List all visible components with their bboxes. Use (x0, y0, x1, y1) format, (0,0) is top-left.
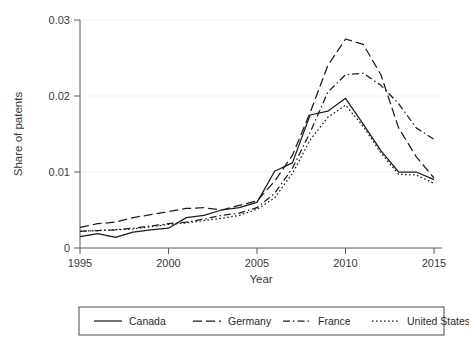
x-tick-label: 2000 (156, 257, 180, 269)
legend-label-germany: Germany (228, 315, 272, 327)
legend-label-united-states: United States (407, 315, 469, 327)
y-tick-label: 0.03 (49, 14, 70, 26)
y-axis-title: Share of patents (12, 92, 24, 177)
x-axis-title: Year (249, 273, 272, 285)
y-tick-label: 0.01 (49, 166, 70, 178)
legend-label-canada: Canada (129, 315, 166, 327)
x-tick-label: 2015 (422, 257, 446, 269)
y-tick-label: 0 (64, 242, 70, 254)
y-tick-label: 0.02 (49, 90, 70, 102)
x-tick-label: 2010 (333, 257, 357, 269)
x-tick-label: 2005 (245, 257, 269, 269)
patent-share-line-chart: 00.010.020.03 19952000200520102015 Share… (0, 0, 469, 348)
legend-label-france: France (318, 315, 351, 327)
x-tick-label: 1995 (68, 257, 92, 269)
